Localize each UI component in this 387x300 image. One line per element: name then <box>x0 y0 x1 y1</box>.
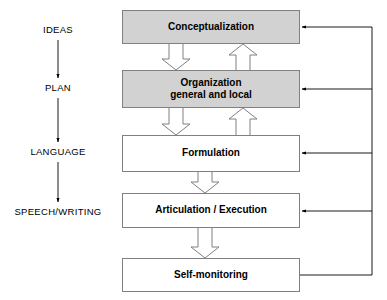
process-box-line: Articulation / Execution <box>155 204 267 217</box>
stage-label-plan: PLAN <box>45 82 71 93</box>
feedback-loop-group <box>300 27 372 275</box>
block-arrow-up-formulation-to-organization <box>229 108 257 135</box>
process-box-line: Self-monitoring <box>174 269 248 282</box>
feedback-bus-line <box>300 27 372 275</box>
block-arrow-down-articulation-to-self-monitoring <box>191 228 219 258</box>
process-box-line: Formulation <box>182 147 240 160</box>
process-box-label-articulation-execution: Articulation / Execution <box>155 204 267 217</box>
stage-label-ideas: IDEAS <box>43 24 73 35</box>
process-box-label-conceptualization: Conceptualization <box>168 21 254 34</box>
block-arrow-down-conceptualization-to-organization <box>162 44 190 70</box>
process-box-label-self-monitoring: Self-monitoring <box>174 269 248 282</box>
process-box-conceptualization: Conceptualization <box>122 10 300 44</box>
process-box-label-formulation: Formulation <box>182 147 240 160</box>
process-box-self-monitoring: Self-monitoring <box>122 258 300 292</box>
process-box-line: Organization <box>170 77 252 90</box>
process-box-line: Conceptualization <box>168 21 254 34</box>
stage-label-language: LANGUAGE <box>30 146 85 157</box>
process-box-formulation: Formulation <box>122 135 300 172</box>
stage-label-speech-writing: SPEECH/WRITING <box>14 206 101 217</box>
process-box-organization: Organizationgeneral and local <box>122 70 300 108</box>
process-box-articulation-execution: Articulation / Execution <box>122 193 300 228</box>
block-arrow-down-formulation-to-articulation <box>191 172 219 193</box>
process-box-line: general and local <box>170 89 252 102</box>
block-arrow-down-organization-to-formulation <box>162 108 190 135</box>
block-arrow-up-organization-to-conceptualization <box>229 44 257 70</box>
process-flow-diagram: IDEASPLANLANGUAGESPEECH/WRITING Conceptu… <box>0 0 387 300</box>
process-box-label-organization: Organizationgeneral and local <box>170 77 252 102</box>
